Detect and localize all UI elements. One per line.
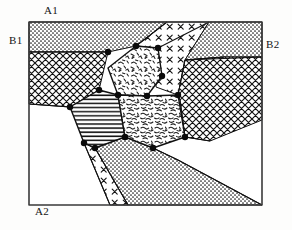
label-a1: A1 — [44, 4, 58, 16]
label-a2: A2 — [35, 205, 49, 217]
figure-container: A1 B1 B2 A2 — [0, 0, 292, 230]
label-b1: B1 — [9, 34, 22, 46]
microstructure-diagram — [0, 0, 292, 230]
label-b2: B2 — [266, 38, 279, 50]
